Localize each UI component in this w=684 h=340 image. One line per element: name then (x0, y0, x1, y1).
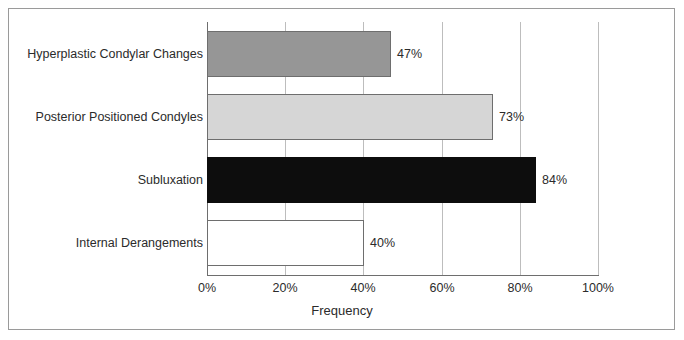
x-axis-title: Frequency (0, 304, 684, 317)
bar-posterior-positioned-condyles (207, 94, 493, 140)
bar-hyperplastic-condylar-changes (207, 31, 391, 77)
x-tick-label-0: 0% (198, 282, 216, 295)
bar-chart-figure: 47% 73% 84% 40% Hyperplastic Condylar Ch… (0, 0, 684, 340)
x-tick-label-40: 40% (350, 282, 375, 295)
gridline-60 (442, 22, 443, 275)
bar-value-hyperplastic-condylar-changes: 47% (397, 48, 422, 61)
category-label-hyperplastic-condylar-changes: Hyperplastic Condylar Changes (5, 48, 203, 61)
category-label-internal-derangements: Internal Derangements (5, 237, 203, 250)
x-tick-label-20: 20% (272, 282, 297, 295)
x-tick-label-80: 80% (507, 282, 532, 295)
category-label-subluxation: Subluxation (5, 174, 203, 187)
bar-value-subluxation: 84% (542, 174, 567, 187)
bar-internal-derangements (207, 220, 364, 266)
gridline-100 (598, 22, 599, 275)
category-label-posterior-positioned-condyles: Posterior Positioned Condyles (5, 111, 203, 124)
x-tick-label-100: 100% (582, 282, 614, 295)
bar-value-posterior-positioned-condyles: 73% (499, 111, 524, 124)
gridline-80 (520, 22, 521, 275)
bar-value-internal-derangements: 40% (370, 237, 395, 250)
bar-subluxation (207, 157, 536, 203)
x-axis-line (207, 275, 599, 276)
x-tick-label-60: 60% (429, 282, 454, 295)
